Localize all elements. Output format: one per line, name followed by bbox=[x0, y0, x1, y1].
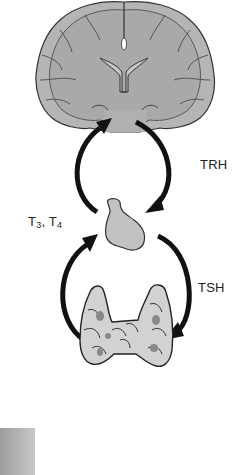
t4-label: T bbox=[49, 214, 57, 229]
label-separator: , bbox=[41, 214, 48, 229]
thyroid-axis-diagram: TRH TSH T3, T4 bbox=[0, 0, 249, 475]
thyroid-gland-icon bbox=[80, 285, 173, 366]
brain-icon bbox=[36, 2, 215, 132]
t4-subscript: 4 bbox=[57, 220, 62, 230]
pituitary-gland-icon bbox=[105, 199, 144, 250]
t3-label: T bbox=[28, 214, 36, 229]
diagram-graphic bbox=[0, 0, 249, 475]
trh-arrow-icon bbox=[136, 122, 169, 213]
page-edge-shading bbox=[0, 428, 35, 475]
tsh-label: TSH bbox=[198, 280, 225, 295]
trh-label: TRH bbox=[200, 157, 227, 172]
t3-t4-feedback-arrow-to-brain bbox=[77, 118, 112, 212]
t3-t4-label: T3, T4 bbox=[28, 214, 62, 230]
